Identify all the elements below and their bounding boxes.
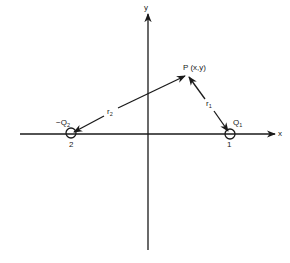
diagram-svg <box>0 0 290 263</box>
charge-1-index: 1 <box>227 141 231 149</box>
charge-2-subscript: 2 <box>67 122 70 128</box>
x-axis-label: x <box>278 130 282 138</box>
point-p-label: P (x,y) <box>183 64 206 72</box>
r2-vector-upper <box>118 76 185 108</box>
r1-label: r1 <box>206 100 212 110</box>
charge-2-label: −Q2 <box>56 119 70 129</box>
r1-vector-upper <box>189 77 205 99</box>
r2-label: r2 <box>107 108 113 118</box>
charge-1-subscript: 1 <box>239 122 242 128</box>
r2-subscript: 2 <box>110 111 113 117</box>
diagram-canvas: y x P (x,y) −Q2 2 Q1 1 r2 r1 <box>0 0 290 263</box>
charge-2-circle <box>66 128 76 138</box>
charge-1-label: Q1 <box>233 119 242 129</box>
r2-vector-lower <box>74 116 104 132</box>
charge-2-index: 2 <box>69 141 73 149</box>
y-axis-label: y <box>144 4 148 12</box>
r1-subscript: 1 <box>209 103 212 109</box>
r1-vector-lower <box>214 111 228 131</box>
